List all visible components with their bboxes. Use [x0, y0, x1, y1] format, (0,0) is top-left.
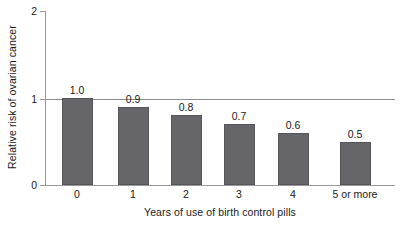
- chart-figure: Relative risk of ovarian cancer 0 1 2 Ye…: [0, 0, 401, 227]
- x-tick-label: 5 or more: [320, 188, 390, 201]
- bar-value-label: 1.0: [57, 84, 97, 96]
- bar-value-label: 0.5: [335, 128, 375, 140]
- bar: [278, 133, 309, 185]
- bar: [340, 142, 371, 186]
- bar: [62, 98, 93, 185]
- bar: [224, 124, 255, 185]
- y-tick-label-0: 0: [15, 180, 37, 191]
- bar-value-label: 0.9: [113, 93, 153, 105]
- bar: [171, 115, 202, 185]
- bar-value-label: 0.8: [166, 101, 206, 113]
- x-axis-title: Years of use of birth control pills: [45, 206, 395, 218]
- bar-value-label: 0.7: [219, 110, 259, 122]
- bar: [118, 107, 149, 185]
- bar-value-label: 0.6: [273, 119, 313, 131]
- x-axis-line: [45, 185, 395, 186]
- x-tick-label: 4: [258, 188, 328, 201]
- plot-area: [45, 11, 395, 185]
- y-tick-label-2: 2: [15, 6, 37, 17]
- y-tick-mark-0: [40, 185, 45, 186]
- y-tick-label-1: 1: [15, 94, 37, 105]
